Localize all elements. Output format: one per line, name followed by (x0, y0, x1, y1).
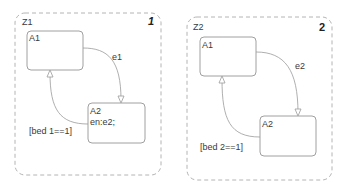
z1-arrowhead-bed1-icon (47, 70, 53, 77)
z1-arrowhead-e1-icon (118, 96, 124, 103)
z2-bed2-label: [bed 2==1] (200, 142, 243, 152)
z1-order-number: 1 (148, 15, 154, 27)
z2-a2-name: A2 (262, 119, 273, 129)
z1-name: Z1 (22, 17, 33, 27)
z2-order-number: 2 (319, 21, 325, 33)
z1-a2-name: A2 (90, 106, 101, 116)
z1-a2-action: en:e2; (90, 117, 115, 127)
z2-arrowhead-bed2-icon (219, 76, 225, 83)
z1-bed1-label: [bed 1==1] (29, 126, 72, 136)
z2-name: Z2 (193, 22, 204, 32)
diagram-canvas (0, 0, 346, 193)
z2-e2-label: e2 (295, 61, 305, 71)
z2-transition-e2[interactable] (256, 52, 298, 113)
z2-arrowhead-e2-icon (295, 109, 301, 116)
z1-transition-bed1[interactable] (50, 73, 88, 124)
z2-transition-bed2[interactable] (222, 79, 260, 137)
z1-a1-name: A1 (29, 33, 40, 43)
z2-a1-name: A1 (202, 40, 213, 50)
z1-e1-label: e1 (112, 52, 122, 62)
